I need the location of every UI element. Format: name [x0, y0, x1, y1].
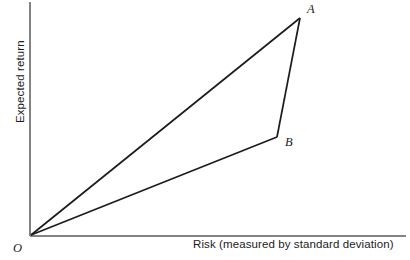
origin-label: O	[13, 241, 22, 255]
risk-return-figure: A B O Risk (measured by standard deviati…	[0, 0, 410, 260]
frontier-segment-b-to-o	[31, 137, 277, 235]
frontier-segment-a-to-b	[277, 18, 300, 137]
x-axis-title: Risk (measured by standard deviation)	[193, 238, 394, 250]
y-axis-title: Expected return	[14, 40, 26, 123]
point-label-a: A	[306, 2, 315, 16]
plot-area: A B O	[0, 0, 410, 260]
point-label-b: B	[285, 135, 293, 149]
frontier-segment-o-to-a	[31, 18, 300, 235]
